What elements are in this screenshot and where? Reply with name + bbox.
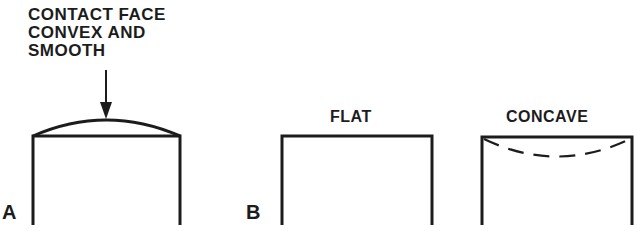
callout-arrow-icon bbox=[100, 70, 112, 119]
panel-label-b: B bbox=[246, 201, 261, 224]
concave-title: CONCAVE bbox=[506, 108, 588, 126]
convex-callout-text: CONTACT FACE CONVEX AND SMOOTH bbox=[28, 6, 166, 60]
callout-line: CONTACT FACE bbox=[28, 6, 166, 24]
diagram-canvas: CONTACT FACE CONVEX AND SMOOTH FLAT CONC… bbox=[0, 0, 637, 231]
flat-electrode-shape bbox=[282, 136, 432, 225]
callout-line: SMOOTH bbox=[28, 42, 166, 60]
convex-electrode-shape bbox=[33, 120, 180, 225]
panel-label-a: A bbox=[2, 201, 17, 224]
concave-electrode-shape bbox=[482, 137, 632, 225]
callout-line: CONVEX AND bbox=[28, 24, 166, 42]
flat-title: FLAT bbox=[330, 108, 372, 126]
